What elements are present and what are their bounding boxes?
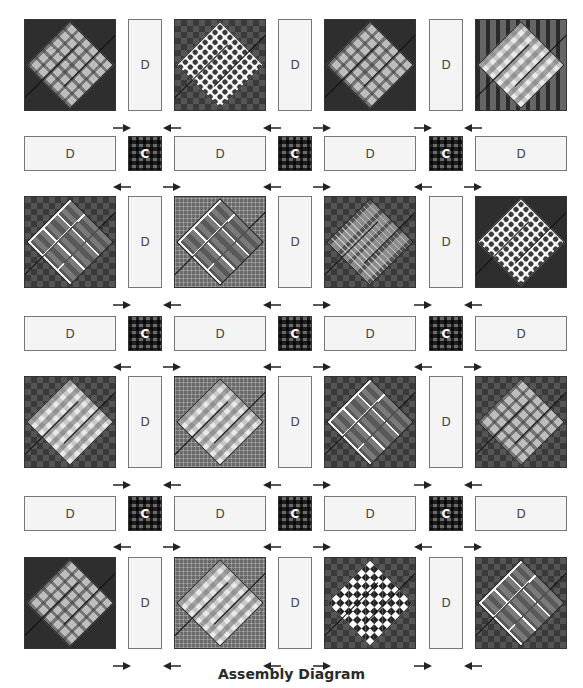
cornerstone-c-label: C — [141, 147, 150, 161]
diamond-center — [326, 378, 414, 466]
sashing-vertical-d-label: D — [290, 58, 299, 72]
diamond-center — [26, 198, 114, 286]
sashing-vertical-d: D — [429, 557, 463, 649]
arrow-left-icon — [464, 294, 482, 302]
arrow-right-icon — [313, 536, 331, 544]
sashing-vertical-d-label: D — [140, 415, 149, 429]
cornerstone-c: C — [278, 316, 312, 351]
arrow-right-icon — [414, 474, 432, 482]
sashing-vertical-d-label: D — [290, 235, 299, 249]
cornerstone-c-label: C — [141, 327, 150, 341]
quilt-block — [475, 376, 567, 468]
sashing-horizontal-d: D — [324, 316, 416, 351]
arrow-right-icon — [163, 536, 181, 544]
cornerstone-c-label: C — [291, 147, 300, 161]
arrow-right-icon — [464, 356, 482, 364]
arrow-right-icon — [113, 294, 131, 302]
quilt-block — [174, 557, 266, 649]
sashing-horizontal-d-label: D — [516, 147, 525, 161]
quilt-block — [24, 557, 116, 649]
cornerstone-c: C — [128, 316, 162, 351]
sashing-vertical-d: D — [278, 557, 312, 649]
arrow-right-icon — [113, 655, 131, 663]
sashing-horizontal-d: D — [24, 136, 116, 171]
cornerstone-c-label: C — [291, 327, 300, 341]
arrow-right-icon — [313, 176, 331, 184]
arrow-left-icon — [263, 474, 281, 482]
cornerstone-c: C — [128, 136, 162, 171]
sashing-vertical-d-label: D — [441, 58, 450, 72]
quilt-block — [324, 196, 416, 288]
sashing-horizontal-d: D — [475, 136, 567, 171]
sashing-horizontal-d: D — [174, 496, 266, 531]
arrow-right-icon — [414, 117, 432, 125]
sashing-vertical-d: D — [128, 376, 162, 468]
sashing-horizontal-d-label: D — [365, 327, 374, 341]
sashing-horizontal-d-label: D — [215, 507, 224, 521]
sashing-vertical-d: D — [128, 557, 162, 649]
sashing-horizontal-d: D — [174, 316, 266, 351]
sashing-vertical-d: D — [278, 376, 312, 468]
diamond-center — [176, 559, 264, 647]
arrow-right-icon — [313, 356, 331, 364]
cornerstone-c: C — [278, 136, 312, 171]
diamond-center — [326, 559, 414, 647]
arrow-left-icon — [263, 655, 281, 663]
sashing-vertical-d: D — [429, 196, 463, 288]
quilt-block — [174, 376, 266, 468]
arrow-right-icon — [113, 117, 131, 125]
arrow-right-icon — [313, 294, 331, 302]
quilt-block — [174, 19, 266, 111]
arrow-left-icon — [414, 536, 432, 544]
sashing-horizontal-d-label: D — [215, 147, 224, 161]
diamond-center — [26, 21, 114, 109]
arrow-left-icon — [163, 474, 181, 482]
arrow-left-icon — [464, 474, 482, 482]
sashing-vertical-d-label: D — [290, 596, 299, 610]
arrow-right-icon — [163, 176, 181, 184]
arrow-left-icon — [414, 176, 432, 184]
arrow-left-icon — [113, 176, 131, 184]
diamond-center — [477, 378, 565, 466]
arrow-left-icon — [163, 294, 181, 302]
cornerstone-c: C — [429, 316, 463, 351]
sashing-horizontal-d-label: D — [365, 507, 374, 521]
arrow-left-icon — [263, 536, 281, 544]
cornerstone-c-label: C — [291, 507, 300, 521]
diamond-center — [326, 21, 414, 109]
sashing-vertical-d: D — [128, 19, 162, 111]
sashing-horizontal-d: D — [475, 316, 567, 351]
sashing-vertical-d-label: D — [140, 58, 149, 72]
arrow-left-icon — [464, 117, 482, 125]
diamond-center — [477, 198, 565, 286]
arrow-left-icon — [263, 294, 281, 302]
sashing-horizontal-d: D — [324, 136, 416, 171]
arrow-left-icon — [263, 117, 281, 125]
sashing-vertical-d: D — [429, 376, 463, 468]
sashing-horizontal-d-label: D — [215, 327, 224, 341]
diamond-center — [176, 378, 264, 466]
sashing-vertical-d: D — [128, 196, 162, 288]
sashing-horizontal-d-label: D — [65, 327, 74, 341]
quilt-block — [475, 196, 567, 288]
cornerstone-c: C — [278, 496, 312, 531]
quilt-block — [24, 196, 116, 288]
sashing-horizontal-d-label: D — [516, 507, 525, 521]
arrow-left-icon — [113, 356, 131, 364]
sashing-vertical-d-label: D — [441, 415, 450, 429]
sashing-horizontal-d: D — [324, 496, 416, 531]
diamond-center — [477, 559, 565, 647]
quilt-block — [324, 557, 416, 649]
diamond-center — [26, 559, 114, 647]
sashing-vertical-d: D — [429, 19, 463, 111]
arrow-right-icon — [113, 474, 131, 482]
cornerstone-c-label: C — [442, 327, 451, 341]
diamond-center — [326, 198, 414, 286]
arrow-left-icon — [263, 176, 281, 184]
quilt-block — [24, 376, 116, 468]
arrow-right-icon — [464, 176, 482, 184]
arrow-right-icon — [163, 356, 181, 364]
arrow-left-icon — [113, 536, 131, 544]
arrow-left-icon — [163, 117, 181, 125]
sashing-vertical-d-label: D — [290, 415, 299, 429]
